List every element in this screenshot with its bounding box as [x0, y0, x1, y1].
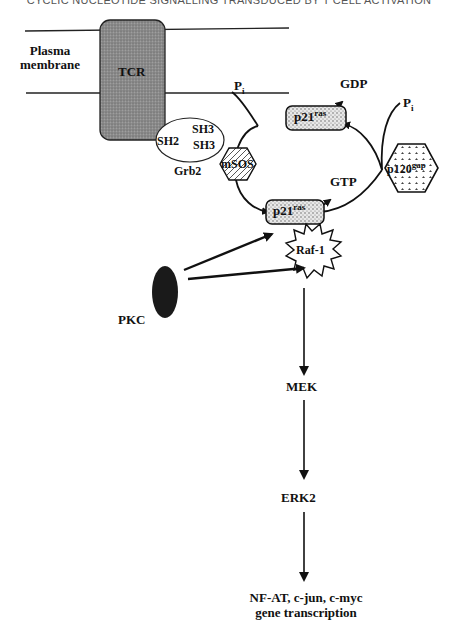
pi-right-sub: i — [411, 103, 414, 113]
tcr-label: TCR — [118, 64, 145, 80]
membrane-label-line1: Plasma — [14, 44, 86, 58]
p120gap-sup: gap — [412, 160, 426, 170]
pkc-oval — [152, 266, 178, 318]
output-line1: NF-AT, c-jun, c-myc — [206, 590, 406, 605]
gdp-label: GDP — [340, 76, 367, 92]
erk2-label: ERK2 — [281, 490, 316, 506]
membrane-label-line2: membrane — [14, 58, 86, 72]
transcription-output: NF-AT, c-jun, c-myc gene transcription — [206, 590, 406, 620]
tcr-receptor — [100, 20, 165, 140]
raf1-label: Raf-1 — [296, 243, 325, 258]
p21ras-gtp-base: p21 — [273, 203, 293, 218]
membrane-label: Plasma membrane — [14, 44, 86, 72]
sh3-label-2: SH3 — [193, 138, 215, 153]
pathway-diagram — [0, 0, 458, 635]
pi-right-label: Pi — [403, 95, 413, 113]
pi-right-base: P — [403, 95, 411, 110]
sh2-label: SH2 — [157, 134, 179, 149]
p21ras-gdp-label: p21ras — [294, 108, 326, 125]
pi-left-label: Pi — [234, 78, 244, 96]
pi-left-base: P — [234, 78, 242, 93]
p21ras-gdp-base: p21 — [294, 109, 314, 124]
msos-label: mSOS — [221, 157, 254, 172]
mek-label: MEK — [286, 379, 317, 395]
grb2-label: Grb2 — [174, 164, 201, 179]
output-line2: gene transcription — [206, 605, 406, 620]
pi-left-sub: i — [242, 86, 245, 96]
gtp-label: GTP — [330, 174, 357, 190]
p120gap-base: p120 — [387, 162, 412, 176]
sh3-label-1: SH3 — [192, 122, 214, 137]
p21ras-gtp-sup: ras — [293, 202, 305, 212]
p21ras-gtp-label: p21ras — [273, 202, 305, 219]
pkc-to-raf-arrow — [188, 268, 304, 279]
pkc-to-ras-arrow — [184, 234, 272, 270]
p120gap-label: p120gap — [387, 160, 426, 177]
pkc-label: PKC — [118, 312, 145, 328]
p21ras-gdp-sup: ras — [314, 108, 326, 118]
